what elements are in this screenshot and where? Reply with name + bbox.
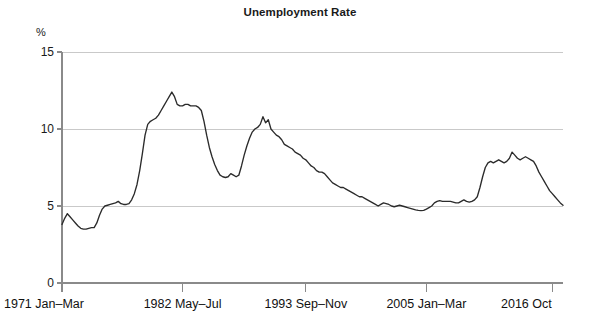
series-line xyxy=(62,92,563,229)
y-axis-tick-label: 10 xyxy=(18,122,54,136)
y-axis-tick-label: 15 xyxy=(18,45,54,59)
x-axis-tick-label: 2016 Oct xyxy=(501,297,552,311)
axis-lines xyxy=(57,52,62,292)
x-axis-tick-label: 2005 Jan–Mar xyxy=(386,297,466,311)
data-series xyxy=(62,92,563,229)
x-axis-tick-label: 1982 May–Jul xyxy=(144,297,222,311)
x-axis-tick-label: 1971 Jan–Mar xyxy=(4,297,84,311)
chart-container: Unemployment Rate % 051015 1971 Jan–Mar1… xyxy=(0,0,600,330)
x-axis-ticks xyxy=(62,283,552,292)
x-axis-tick-label: 1993 Sep–Nov xyxy=(264,297,347,311)
y-axis-tick-label: 5 xyxy=(18,199,54,213)
chart-plot-area xyxy=(0,0,600,330)
y-axis-tick-label: 0 xyxy=(18,276,54,290)
